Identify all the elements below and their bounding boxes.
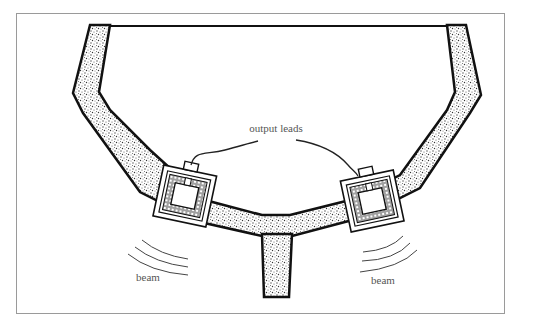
label-beam-right: beam [371,274,395,286]
beam-waves-right [360,236,417,272]
output-lead-left [191,141,258,165]
output-lead-right [296,140,358,176]
transducer-right [339,162,404,232]
keel [262,234,292,297]
transducer-left [153,157,218,227]
label-beam-left: beam [136,271,160,283]
label-output-leads: output leads [249,122,302,134]
hull-transducer-diagram: output leads beam beam [0,0,541,332]
beam-waves-left [128,240,188,275]
